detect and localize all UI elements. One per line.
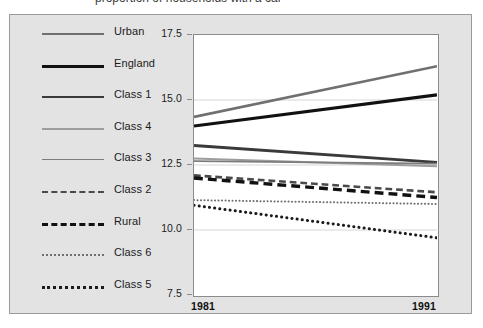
legend-swatch-england: [42, 65, 104, 68]
series-line-rural: [194, 178, 437, 198]
legend-swatch-class-3: [42, 159, 104, 160]
legend-swatch-urban: [42, 33, 104, 35]
legend-label-class-5: Class 5: [114, 278, 151, 290]
y-tick-label: 7.5: [148, 287, 182, 299]
legend-swatch-class-5: [42, 286, 104, 289]
y-tick-label: 15.0: [148, 92, 182, 104]
legend-label-urban: Urban: [114, 25, 144, 37]
legend-item-class-6[interactable]: Class 6: [26, 242, 178, 268]
y-tick-label: 10.0: [148, 222, 182, 234]
y-tick-mark: [187, 229, 192, 230]
y-tick-mark: [187, 164, 192, 165]
clipped-caption-band: proportion of households with a car: [0, 0, 483, 13]
legend-swatch-class-2: [42, 191, 104, 193]
series-line-class-2: [194, 175, 437, 192]
legend-item-england[interactable]: England: [26, 53, 178, 79]
clipped-caption: proportion of households with a car: [95, 0, 282, 5]
y-tick-mark: [187, 294, 192, 295]
legend-label-rural: Rural: [114, 215, 141, 227]
legend-label-class-2: Class 2: [114, 183, 151, 195]
chart-figure: UrbanEnglandClass 1Class 4Class 3Class 2…: [9, 14, 472, 314]
series-line-class-6: [194, 200, 437, 204]
legend-label-class-6: Class 6: [114, 246, 151, 258]
legend-swatch-class-1: [42, 96, 104, 98]
legend-swatch-class-4: [42, 128, 104, 130]
plot-area: [193, 34, 439, 297]
x-tick-label: 1991: [412, 300, 436, 312]
y-tick-label: 12.5: [148, 157, 182, 169]
y-tick-label: 17.5: [148, 27, 182, 39]
legend-label-england: England: [114, 57, 155, 69]
x-tick-label: 1981: [191, 300, 215, 312]
y-tick-mark: [187, 99, 192, 100]
legend-label-class-4: Class 4: [114, 120, 151, 132]
legend-swatch-rural: [42, 223, 104, 226]
legend-item-class-4[interactable]: Class 4: [26, 116, 178, 142]
legend-label-class-1: Class 1: [114, 88, 151, 100]
series-line-class-5: [194, 205, 437, 238]
plot-lines: [194, 35, 437, 295]
legend-swatch-class-6: [42, 254, 104, 256]
legend-label-class-3: Class 3: [114, 151, 151, 163]
y-tick-mark: [187, 34, 192, 35]
legend-item-class-2[interactable]: Class 2: [26, 179, 178, 205]
